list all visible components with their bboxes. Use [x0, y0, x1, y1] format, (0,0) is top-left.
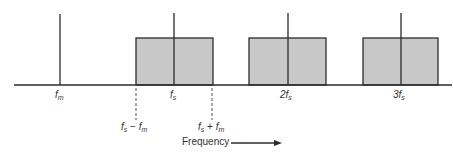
- label-fm: fm: [55, 89, 64, 101]
- label-2fs-sub: s: [288, 94, 292, 101]
- frequency-arrow-icon: [274, 140, 282, 146]
- label-fs-plus-fm-right-sub: m: [218, 126, 224, 133]
- axis-label-frequency: Frequency: [182, 136, 229, 147]
- label-fs: fs: [170, 89, 176, 101]
- label-fs-plus-fm: fs + fm: [198, 121, 224, 133]
- label-2fs: 2fs: [280, 89, 292, 101]
- label-fs-plus-fm-op: +: [204, 121, 215, 132]
- diagram-graphics: [0, 0, 453, 154]
- label-fm-sub: m: [58, 94, 64, 101]
- label-3fs-sub: s: [401, 94, 405, 101]
- label-fs-minus-fm-op: −: [127, 121, 138, 132]
- label-3fs: 3fs: [393, 89, 405, 101]
- label-fs-minus-fm-right-sub: m: [141, 126, 147, 133]
- label-fs-minus-fm: fs − fm: [121, 121, 147, 133]
- label-fs-sub: s: [173, 94, 177, 101]
- spectrum-diagram: fm fs 2fs 3fs fs − fm fs + fm Frequency: [0, 0, 453, 154]
